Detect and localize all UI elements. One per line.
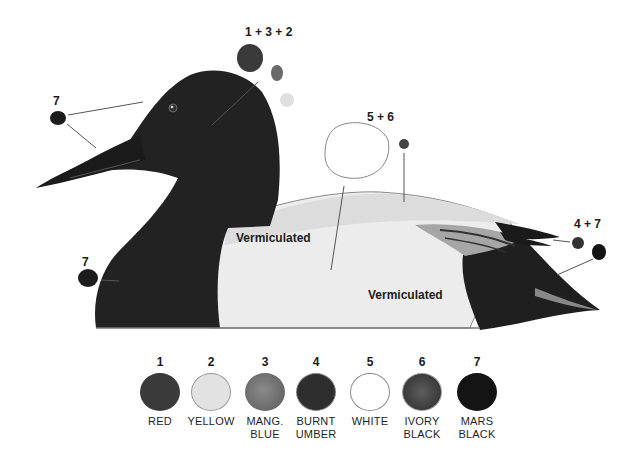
paint-swatch-icon xyxy=(457,373,497,411)
swatch-burnt-umber: 4 BURNT UMBER xyxy=(291,355,341,441)
swatch-number: 4 xyxy=(291,355,341,371)
swatch-ivory-black: 6 IVORY BLACK xyxy=(397,355,447,441)
swatch-name-line2: BLUE xyxy=(240,428,290,441)
swatch-mang-blue: 3 MANG. BLUE xyxy=(240,355,290,441)
paint-swatch-icon xyxy=(296,373,336,411)
swatch-name-line2: UMBER xyxy=(291,428,341,441)
swatch-name: IVORY xyxy=(397,415,447,428)
swatch-name: MANG. xyxy=(240,415,290,428)
callout-head-label: 1 + 3 + 2 xyxy=(245,25,292,39)
paint-swatch-icon xyxy=(140,373,180,411)
paint-blob-mang-blue xyxy=(271,65,283,81)
paint-blob-mars-black-bill xyxy=(50,111,66,125)
swatch-name: WHITE xyxy=(345,415,395,428)
paint-swatch-icon xyxy=(402,373,442,411)
swatch-name: YELLOW xyxy=(186,415,236,428)
callout-bill-label: 7 xyxy=(53,94,60,108)
swatch-red: 1 RED xyxy=(135,355,185,428)
paint-swatch-icon xyxy=(350,373,390,411)
swatch-white: 5 WHITE xyxy=(345,355,395,428)
paint-blob-yellow xyxy=(280,93,294,107)
paint-blob-ivory-black xyxy=(399,139,409,149)
vermiculated-label-rear: Vermiculated xyxy=(368,288,443,302)
vermiculated-label-front: Vermiculated xyxy=(236,231,311,245)
swatch-number: 7 xyxy=(452,355,502,371)
swatch-name: RED xyxy=(135,415,185,428)
swatch-number: 6 xyxy=(397,355,447,371)
swatch-number: 3 xyxy=(240,355,290,371)
paint-blob-red xyxy=(237,44,263,72)
swatch-number: 2 xyxy=(186,355,236,371)
duck-eye xyxy=(169,104,177,112)
callout-tail-label: 4 + 7 xyxy=(574,217,601,231)
paint-blob-mars-black-tail xyxy=(592,244,606,260)
paint-swatch-icon xyxy=(191,373,231,411)
paint-swatch-icon xyxy=(245,373,285,411)
swatch-mars-black: 7 MARS BLACK xyxy=(452,355,502,441)
swatch-number: 5 xyxy=(345,355,395,371)
paint-blob-white xyxy=(325,123,389,179)
swatch-name-line2: BLACK xyxy=(397,428,447,441)
callout-back-label: 5 + 6 xyxy=(367,110,394,124)
swatch-number: 1 xyxy=(135,355,185,371)
duck-tail-black xyxy=(462,240,600,330)
swatch-name: MARS xyxy=(452,415,502,428)
swatch-yellow: 2 YELLOW xyxy=(186,355,236,428)
callout-breast-label: 7 xyxy=(82,255,89,269)
paint-blob-mars-black-breast xyxy=(78,269,98,287)
swatch-name: BURNT xyxy=(291,415,341,428)
paint-blob-burnt-umber xyxy=(572,237,584,249)
swatch-name-line2: BLACK xyxy=(452,428,502,441)
